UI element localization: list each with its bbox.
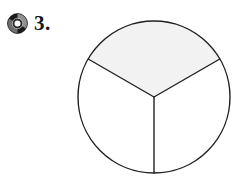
question-number: 3. xyxy=(34,13,51,34)
question-marker: 3. xyxy=(7,13,51,34)
worksheet-page: 3. xyxy=(0,0,250,187)
fraction-circle-figure xyxy=(76,10,232,185)
compact-disc-icon xyxy=(7,13,28,34)
